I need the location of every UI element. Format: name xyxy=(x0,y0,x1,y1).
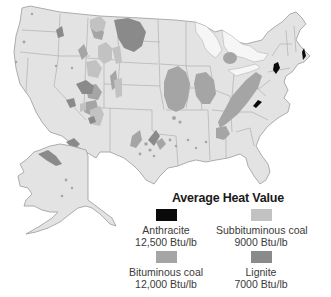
alaska-land xyxy=(18,144,116,234)
legend-title: Average Heat Value xyxy=(172,191,284,205)
alaska-inset xyxy=(18,144,116,234)
michigan-basin xyxy=(223,52,237,64)
legend-item-anthracite: Anthracite 12,500 Btu/lb xyxy=(121,209,211,248)
legend-label: Subbituminous coal xyxy=(216,224,306,236)
anthracite-swatch xyxy=(156,209,177,221)
legend-label: Bituminous coal xyxy=(121,266,211,278)
legend-label: Anthracite xyxy=(121,224,211,236)
legend-label: Lignite xyxy=(216,266,306,278)
legend-item-subbituminous: Subbituminous coal 9000 Btu/lb xyxy=(216,209,306,248)
legend-item-bituminous: Bituminous coal 12,000 Btu/lb xyxy=(121,251,211,290)
legend-value: 9000 Btu/lb xyxy=(216,236,306,248)
legend-value: 12,500 Btu/lb xyxy=(121,236,211,248)
subbituminous-swatch xyxy=(251,209,272,221)
legend-value: 7000 Btu/lb xyxy=(216,278,306,290)
lignite-swatch xyxy=(251,251,272,263)
legend-item-lignite: Lignite 7000 Btu/lb xyxy=(216,251,306,290)
legend-value: 12,000 Btu/lb xyxy=(121,278,211,290)
bituminous-swatch xyxy=(156,251,177,263)
